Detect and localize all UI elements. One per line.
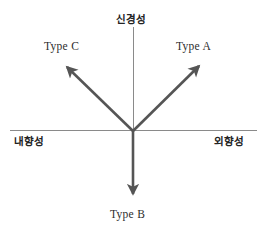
vector-label-type-a: Type A <box>176 41 211 53</box>
vector-label-type-b: Type B <box>110 209 145 221</box>
diagram-canvas: 신경성 내향성 외향성 Type A Type C Type B <box>0 0 265 231</box>
vector-type-a <box>133 66 199 131</box>
vector-type-c <box>67 67 133 131</box>
personality-type-vector-diagram <box>0 0 265 231</box>
vector-label-type-c: Type C <box>44 41 79 53</box>
axis-label-neuroticism: 신경성 <box>116 14 147 25</box>
axis-label-introversion: 내향성 <box>14 136 45 147</box>
axis-label-extroversion: 외향성 <box>214 136 245 147</box>
